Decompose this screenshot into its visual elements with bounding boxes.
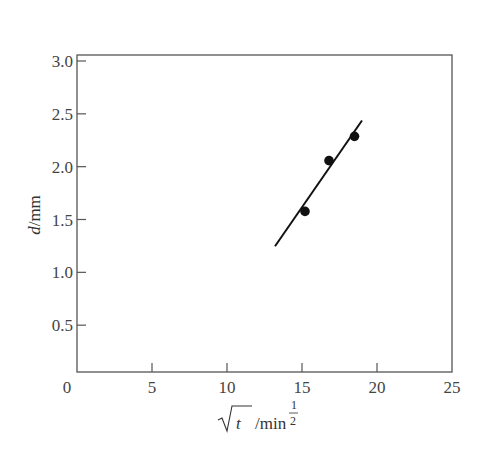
svg-text:d/mm: d/mm <box>25 195 44 235</box>
y-axis-label: d/mm <box>25 195 44 235</box>
y-tick-label: 2.5 <box>52 105 73 124</box>
plot-frame <box>77 55 452 372</box>
x-tick-label: 15 <box>294 378 311 397</box>
svg-text:/min: /min <box>255 414 287 433</box>
chart: 0.51.01.52.02.53.0 0510152025 d/mm t /mi… <box>0 0 490 464</box>
data-point <box>300 207 310 217</box>
y-tick-label: 3.0 <box>52 52 73 71</box>
svg-text:2: 2 <box>290 414 296 428</box>
svg-text:1: 1 <box>291 398 297 412</box>
y-tick-label: 2.0 <box>52 158 73 177</box>
svg-text:t: t <box>236 414 242 433</box>
x-tick-label: 20 <box>369 378 386 397</box>
x-tick-label: 25 <box>444 378 461 397</box>
x-axis-label: t /min 1 2 <box>218 398 298 433</box>
x-tick-label: 0 <box>63 378 72 397</box>
y-tick-label: 1.5 <box>52 211 73 230</box>
data-point <box>324 156 334 166</box>
y-tick-label: 1.0 <box>52 263 73 282</box>
sqrt-icon <box>218 406 252 431</box>
fit-line <box>275 121 362 247</box>
x-tick-label: 5 <box>148 378 157 397</box>
x-tick-label: 10 <box>219 378 236 397</box>
y-tick-label: 0.5 <box>52 316 73 335</box>
data-point <box>350 132 360 142</box>
y-axis: 0.51.01.52.02.53.0 <box>52 52 86 335</box>
data-points <box>300 132 359 217</box>
x-axis: 0510152025 <box>63 363 461 397</box>
